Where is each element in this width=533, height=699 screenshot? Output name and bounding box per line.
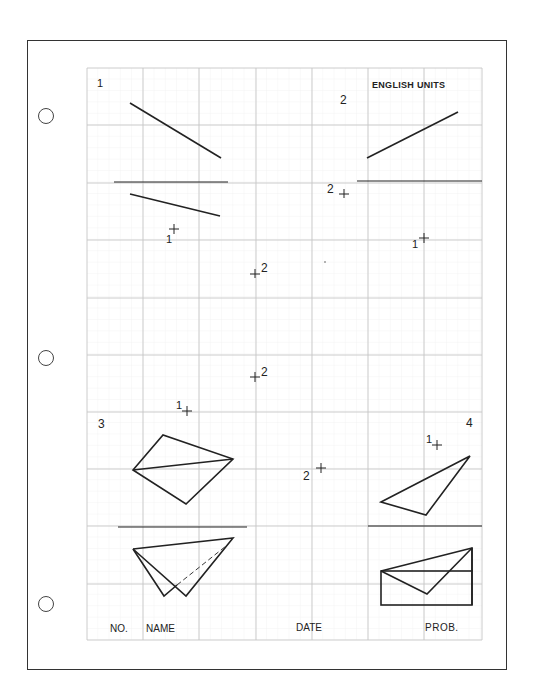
drawing-sheet: 1 1 2 ENGLISH UNITS 2 1 2 2 1 3 2 <box>0 0 533 699</box>
point-label-2c: 2 <box>261 365 268 379</box>
fine-grid <box>87 68 482 640</box>
problem-number-1: 1 <box>97 77 103 89</box>
point-label-1d: 1 <box>426 433 432 445</box>
problem-number-4: 4 <box>466 416 473 430</box>
footer-date-label: DATE <box>296 622 322 633</box>
point-label-1a: 1 <box>166 233 172 245</box>
problem-number-3: 3 <box>98 417 105 431</box>
point-label-2b: 2 <box>261 261 268 275</box>
units-label: ENGLISH UNITS <box>372 80 445 90</box>
point-label-1c: 1 <box>176 399 182 411</box>
point-label-2a: 2 <box>327 182 334 196</box>
stray-dot <box>324 261 326 263</box>
point-label-2d: 2 <box>303 469 310 483</box>
problem-number-2: 2 <box>340 93 347 107</box>
footer-name-label: NAME <box>146 623 175 634</box>
footer-no-label: NO. <box>110 623 128 634</box>
point-label-1b: 1 <box>412 238 418 250</box>
footer-prob-label: PROB. <box>425 622 459 633</box>
